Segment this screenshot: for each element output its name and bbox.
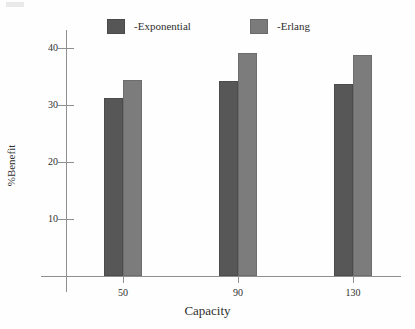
x-tick-mark (123, 276, 124, 283)
x-tick-mark (353, 276, 354, 283)
plot-area (66, 30, 396, 276)
bar-erlang-90[interactable] (238, 53, 257, 276)
x-axis-title: Capacity (0, 304, 415, 317)
x-tick-label: 50 (103, 288, 143, 298)
y-tick-label: 40 (34, 43, 58, 53)
y-axis-title: %Benefit (6, 136, 17, 196)
bar-chart-figure: -Exponential -Erlang 10203040 %Benefit 5… (0, 0, 415, 329)
bar-exponential-90[interactable] (219, 81, 238, 277)
x-tick-label: 90 (218, 288, 258, 298)
y-tick-label: 20 (34, 157, 58, 167)
bar-group (219, 30, 257, 276)
y-tick-label: 30 (34, 100, 58, 110)
bar-group (104, 30, 142, 276)
bar-exponential-50[interactable] (104, 98, 123, 276)
x-axis-line (41, 276, 401, 277)
x-tick-mark (238, 276, 239, 283)
x-tick-label: 130 (333, 288, 373, 298)
bar-erlang-130[interactable] (353, 55, 372, 276)
bar-erlang-50[interactable] (123, 80, 142, 276)
bar-exponential-130[interactable] (334, 84, 353, 276)
bar-group (334, 30, 372, 276)
y-tick-label: 10 (34, 214, 58, 224)
